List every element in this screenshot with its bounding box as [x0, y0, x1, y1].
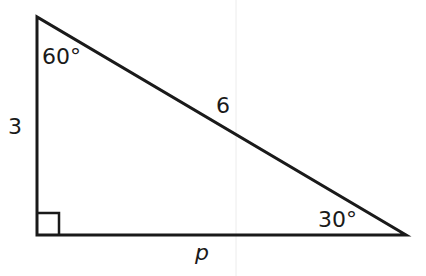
diagram-canvas: 60° 30° 3 6 p	[0, 0, 426, 276]
angle-label-right: 30°	[318, 207, 357, 232]
triangle	[37, 17, 406, 235]
angle-label-top: 60°	[42, 44, 81, 69]
side-label-left: 3	[8, 114, 22, 139]
right-angle-marker-icon	[37, 213, 59, 235]
side-label-hypotenuse: 6	[216, 93, 230, 118]
side-label-bottom: p	[194, 240, 209, 265]
triangle-figure: 60° 30° 3 6 p	[0, 0, 426, 276]
